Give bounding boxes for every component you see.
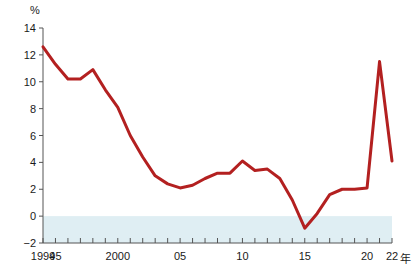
x-tick-label: 15 xyxy=(299,250,311,262)
x-axis-unit-label: 年 xyxy=(400,250,411,266)
x-tick-label: 95 xyxy=(49,250,61,262)
x-tick-label: 20 xyxy=(361,250,373,262)
chart-container: % −202468101214 19949520000510152022年 xyxy=(0,0,420,270)
line-chart-plot xyxy=(0,0,420,270)
x-tick-label: 10 xyxy=(236,250,248,262)
y-axis-ticks xyxy=(39,28,43,243)
data-series-line xyxy=(43,47,392,228)
x-tick-label: 05 xyxy=(174,250,186,262)
x-tick-label: 2000 xyxy=(106,250,130,262)
x-tick-label: 22 xyxy=(386,250,398,262)
